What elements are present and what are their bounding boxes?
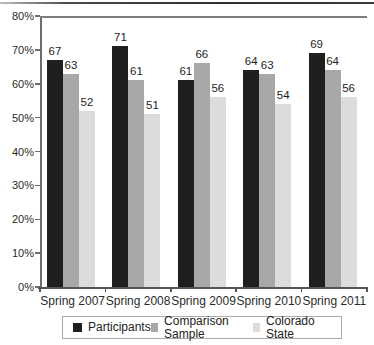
bar-value-label: 63 xyxy=(251,59,283,72)
bar-value-label: 61 xyxy=(120,65,152,78)
bar-value-label: 64 xyxy=(317,55,349,68)
legend-swatch-icon xyxy=(151,323,158,332)
x-tick xyxy=(39,287,41,292)
legend-item: Comparison Sample xyxy=(151,315,253,341)
x-category-label: Spring 2008 xyxy=(105,294,170,308)
bar-colorado-state xyxy=(144,114,160,287)
x-tick xyxy=(301,287,303,292)
legend-label: Participants xyxy=(88,321,151,334)
y-tick-label: 10% xyxy=(0,247,34,259)
bar-participants xyxy=(243,70,259,287)
plot-top-line xyxy=(40,16,367,18)
y-tick xyxy=(35,252,40,254)
y-tick-label: 70% xyxy=(0,44,34,56)
bar-colorado-state xyxy=(275,104,291,287)
bar-value-label: 69 xyxy=(301,38,333,51)
bar-value-label: 63 xyxy=(55,59,87,72)
y-tick-label: 80% xyxy=(0,10,34,22)
legend: ParticipantsComparison SampleColorado St… xyxy=(62,316,342,339)
y-tick-label: 60% xyxy=(0,78,34,90)
bar-comparison-sample xyxy=(194,63,210,287)
y-tick-label: 40% xyxy=(0,146,34,158)
bar-value-label: 54 xyxy=(267,89,299,102)
x-category-label: Spring 2007 xyxy=(40,294,105,308)
x-category-label: Spring 2010 xyxy=(236,294,301,308)
x-tick xyxy=(105,287,107,292)
y-tick-label: 0% xyxy=(0,281,34,293)
y-tick-label: 30% xyxy=(0,179,34,191)
bar-colorado-state xyxy=(210,97,226,287)
y-tick xyxy=(35,15,40,17)
x-category-label: Spring 2011 xyxy=(302,294,367,308)
bar-colorado-state xyxy=(79,111,95,287)
bar-participants xyxy=(112,46,128,287)
plot-area: 0%10%20%30%40%50%60%70%80%676352Spring 2… xyxy=(0,0,374,315)
bar-value-label: 71 xyxy=(104,31,136,44)
y-tick-label: 50% xyxy=(0,112,34,124)
bar-comparison-sample xyxy=(325,70,341,287)
x-category-label: Spring 2009 xyxy=(171,294,236,308)
x-tick xyxy=(235,287,237,292)
bar-comparison-sample xyxy=(259,74,275,287)
bar-colorado-state xyxy=(341,97,357,287)
bar-value-label: 52 xyxy=(71,96,103,109)
y-tick xyxy=(35,117,40,119)
legend-label: Comparison Sample xyxy=(164,315,253,341)
bar-value-label: 56 xyxy=(333,82,365,95)
bar-participants xyxy=(309,53,325,287)
bar-participants xyxy=(47,60,63,287)
bar-participants xyxy=(178,80,194,287)
legend-swatch-icon xyxy=(253,323,260,332)
y-tick xyxy=(35,151,40,153)
legend-item: Colorado State xyxy=(253,315,331,341)
y-tick xyxy=(35,83,40,85)
y-tick-label: 20% xyxy=(0,213,34,225)
legend-swatch-icon xyxy=(73,323,82,332)
legend-label: Colorado State xyxy=(266,315,331,341)
bar-value-label: 67 xyxy=(39,45,71,58)
x-tick xyxy=(170,287,172,292)
legend-item: Participants xyxy=(73,321,151,334)
chart: 0%10%20%30%40%50%60%70%80%676352Spring 2… xyxy=(0,0,374,345)
bar-value-label: 56 xyxy=(202,82,234,95)
y-tick xyxy=(35,219,40,221)
bar-value-label: 51 xyxy=(136,99,168,112)
x-tick xyxy=(366,287,368,292)
bar-value-label: 66 xyxy=(186,48,218,61)
y-tick xyxy=(35,185,40,187)
x-axis xyxy=(38,287,368,289)
